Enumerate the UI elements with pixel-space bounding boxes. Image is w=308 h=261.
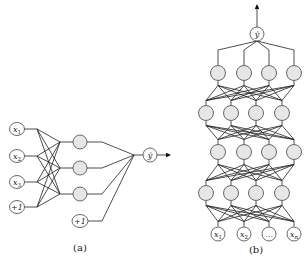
hidden-node bbox=[73, 135, 87, 149]
panel-b-caption: (b) bbox=[249, 244, 263, 255]
hidden-node bbox=[237, 145, 252, 160]
hidden-node bbox=[73, 161, 87, 175]
hidden-node bbox=[224, 186, 239, 201]
bias-node-label: +1 bbox=[74, 217, 86, 226]
neural-network-diagram: x1x2x3+1+1ŷ x1x2…xnŷ (a) (b) bbox=[0, 0, 308, 261]
hidden-node bbox=[262, 145, 277, 160]
input-node-label: … bbox=[265, 230, 273, 239]
hidden-node bbox=[199, 106, 214, 121]
panel-a-shallow-network: x1x2x3+1+1ŷ bbox=[10, 123, 171, 228]
input-hidden-edge bbox=[37, 142, 60, 156]
hidden-node bbox=[249, 186, 264, 201]
hidden-output-edge bbox=[102, 142, 134, 155]
output-node-label: ŷ bbox=[147, 151, 153, 160]
hidden-output-edge bbox=[102, 155, 134, 168]
hidden-node bbox=[73, 187, 87, 201]
hidden-node bbox=[249, 106, 264, 121]
hidden-node bbox=[287, 66, 302, 81]
input-node-label: +1 bbox=[11, 203, 23, 212]
hidden-node bbox=[275, 106, 290, 121]
hidden-node bbox=[287, 145, 302, 160]
hidden-node bbox=[211, 66, 226, 81]
hidden-node bbox=[262, 66, 277, 81]
panel-a-caption: (a) bbox=[73, 242, 87, 253]
panel-b-deep-network: x1x2…xnŷ bbox=[199, 5, 302, 241]
hidden-node bbox=[237, 66, 252, 81]
hidden-node bbox=[224, 106, 239, 121]
output-node-label: ŷ bbox=[254, 30, 260, 39]
hidden-node bbox=[275, 186, 290, 201]
hidden-node bbox=[211, 145, 226, 160]
hidden-node bbox=[199, 186, 214, 201]
